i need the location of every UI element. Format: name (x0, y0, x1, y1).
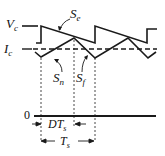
zero-label: 0 (24, 108, 30, 122)
sn-label: Sn (53, 70, 65, 87)
vc-label: Vc (6, 16, 18, 33)
ts-label: Ts (60, 134, 70, 150)
compensation-ramp (22, 26, 157, 43)
diagram-canvas: Vc Ic Se Sn Sf 0 DTs Ts (0, 0, 165, 156)
se-pointer (60, 19, 70, 30)
se-label: Se (70, 6, 81, 23)
vc-sawtooth (36, 26, 157, 43)
ic-label: Ic (3, 41, 12, 58)
sf-label: Sf (76, 70, 87, 87)
dts-label: DTs (47, 117, 66, 133)
